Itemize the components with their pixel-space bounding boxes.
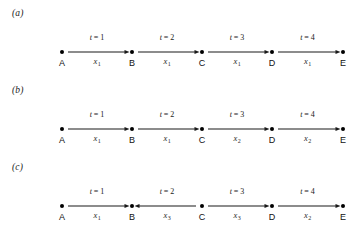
node-dot (60, 50, 64, 54)
edge-weight-label: x1 (304, 56, 311, 66)
edge-line (278, 52, 337, 53)
weight-subscript: 1 (168, 138, 171, 144)
edge-weight-label: x1 (164, 133, 171, 143)
edge-line (138, 206, 196, 207)
time-value: = 3 (232, 33, 245, 42)
edge-time-label: t = 1 (90, 33, 105, 42)
node-label: D (269, 58, 276, 68)
weight-subscript: 1 (98, 61, 101, 67)
edge-weight-label: x1 (234, 56, 241, 66)
node-dot (341, 204, 345, 208)
arrowhead-right (265, 204, 270, 208)
time-value: = 2 (162, 187, 175, 196)
edge-weight-label: x1 (94, 56, 101, 66)
node-label: A (59, 212, 65, 222)
node-dot (130, 50, 134, 54)
edge-time-label: t = 1 (90, 187, 105, 196)
node-dot (341, 127, 345, 131)
edge-line (208, 206, 266, 207)
node-dot (270, 204, 274, 208)
edge-weight-label: x3 (234, 210, 241, 220)
weight-subscript: 2 (308, 215, 311, 221)
time-value: = 3 (232, 187, 245, 196)
time-value: = 1 (92, 33, 105, 42)
node-label: E (340, 135, 346, 145)
edge-line (68, 206, 126, 207)
node-dot (341, 50, 345, 54)
time-value: = 1 (92, 187, 105, 196)
edge-time-label: t = 3 (230, 110, 245, 119)
edge-weight-label: x1 (164, 56, 171, 66)
node-label: B (129, 212, 135, 222)
weight-subscript: 2 (238, 138, 241, 144)
arrowhead-right (195, 127, 200, 131)
node-dot (200, 127, 204, 131)
edge-line (68, 129, 126, 130)
weight-subscript: 1 (98, 138, 101, 144)
time-value: = 1 (92, 110, 105, 119)
node-label: B (129, 58, 135, 68)
time-value: = 4 (302, 33, 315, 42)
edge-line (278, 129, 337, 130)
weight-subscript: 1 (238, 61, 241, 67)
node-track: t = 1x1t = 2x1t = 3x2t = 4x2ABCDE (0, 77, 352, 154)
time-value: = 3 (232, 110, 245, 119)
weight-subscript: 1 (308, 61, 311, 67)
time-value: = 4 (302, 187, 315, 196)
weight-subscript: 1 (98, 215, 101, 221)
edge-time-label: t = 3 (230, 33, 245, 42)
node-label: A (59, 58, 65, 68)
node-label: C (199, 58, 206, 68)
node-label: D (269, 135, 276, 145)
node-label: D (269, 212, 276, 222)
node-label: B (129, 135, 135, 145)
node-dot (130, 127, 134, 131)
edge-time-label: t = 2 (160, 187, 175, 196)
time-value: = 2 (162, 110, 175, 119)
time-value: = 2 (162, 33, 175, 42)
node-label: A (59, 135, 65, 145)
node-dot (270, 127, 274, 131)
arrowhead-right (336, 127, 341, 131)
node-track: t = 1x1t = 2x1t = 3x1t = 4x1ABCDE (0, 0, 352, 77)
node-track: t = 1x1t = 2x3t = 3x3t = 4x2ABCDE (0, 154, 352, 231)
edge-line (208, 129, 266, 130)
edge-time-label: t = 1 (90, 110, 105, 119)
node-dot (200, 50, 204, 54)
edge-weight-label: x1 (94, 133, 101, 143)
node-dot (60, 204, 64, 208)
arrowhead-right (125, 50, 130, 54)
panel-a: (a)t = 1x1t = 2x1t = 3x1t = 4x1ABCDE (0, 0, 352, 77)
arrowhead-left (135, 204, 140, 208)
arrowhead-right (195, 50, 200, 54)
edge-weight-label: x3 (164, 210, 171, 220)
node-dot (270, 50, 274, 54)
arrowhead-right (336, 50, 341, 54)
weight-subscript: 2 (308, 138, 311, 144)
arrowhead-right (265, 127, 270, 131)
arrowhead-right (336, 204, 341, 208)
node-label: E (340, 58, 346, 68)
edge-time-label: t = 2 (160, 110, 175, 119)
edge-time-label: t = 4 (300, 33, 315, 42)
edge-time-label: t = 4 (300, 110, 315, 119)
panel-b: (b)t = 1x1t = 2x1t = 3x2t = 4x2ABCDE (0, 77, 352, 154)
edge-line (208, 52, 266, 53)
panel-c: (c)t = 1x1t = 2x3t = 3x3t = 4x2ABCDE (0, 154, 352, 231)
weight-subscript: 3 (238, 215, 241, 221)
node-label: E (340, 212, 346, 222)
edge-time-label: t = 2 (160, 33, 175, 42)
edge-time-label: t = 3 (230, 187, 245, 196)
node-label: C (199, 135, 206, 145)
arrowhead-right (125, 204, 130, 208)
edge-line (138, 129, 196, 130)
edge-time-label: t = 4 (300, 187, 315, 196)
edge-weight-label: x2 (234, 133, 241, 143)
edge-weight-label: x1 (94, 210, 101, 220)
node-dot (130, 204, 134, 208)
weight-subscript: 3 (168, 215, 171, 221)
arrowhead-right (265, 50, 270, 54)
node-label: C (199, 212, 206, 222)
edge-line (278, 206, 337, 207)
edge-weight-label: x2 (304, 210, 311, 220)
